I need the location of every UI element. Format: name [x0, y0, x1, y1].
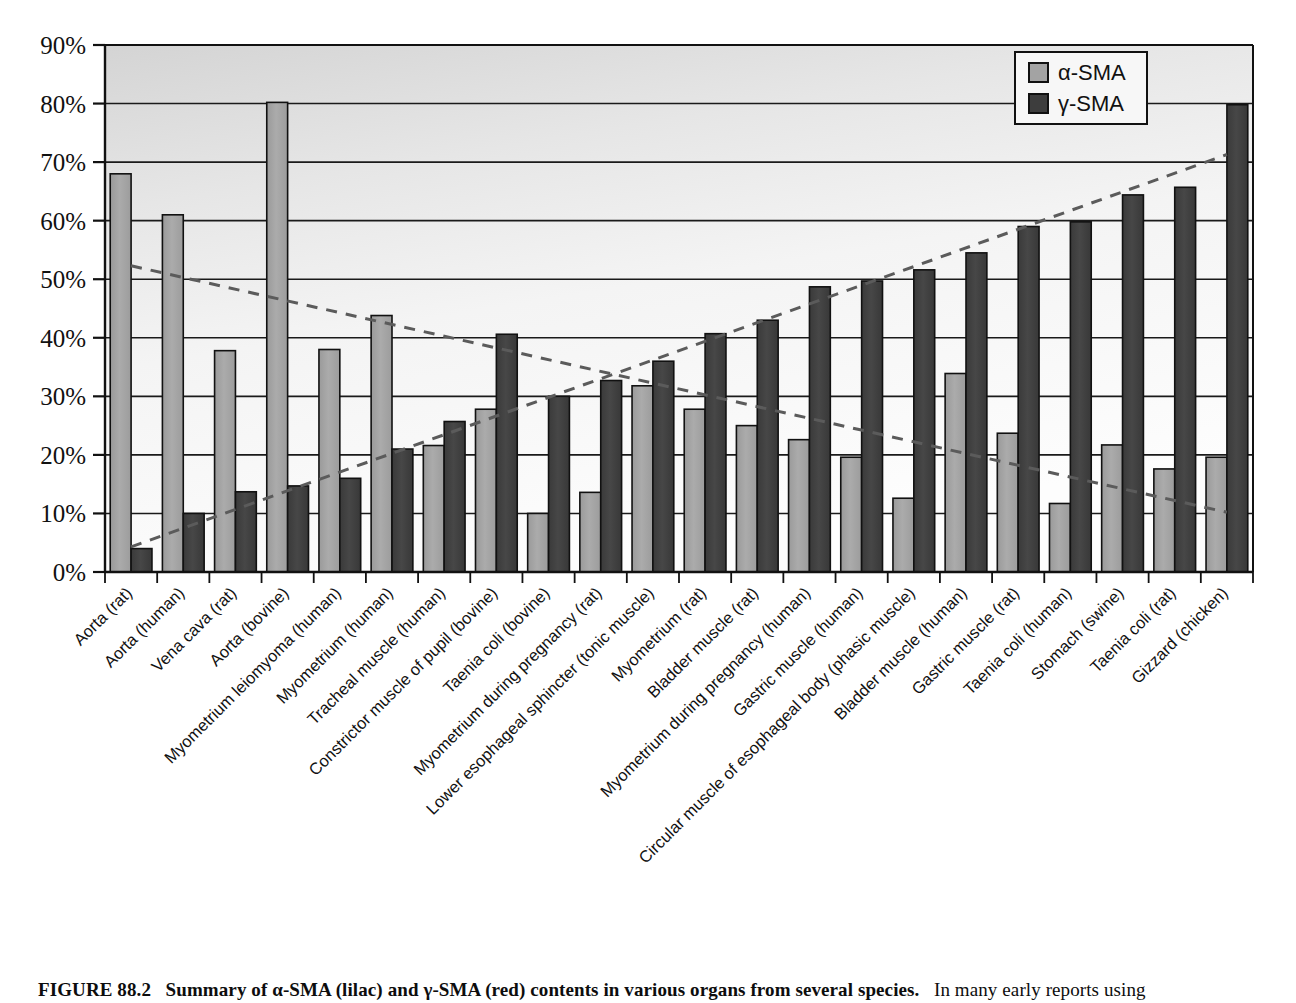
bar-gamma-sma-11 [705, 334, 726, 572]
bar-alpha-sma-2 [215, 351, 236, 572]
gamma-sma-swatch [1029, 94, 1048, 113]
bar-alpha-sma-1 [162, 215, 183, 572]
category-label-7: Constrictor muscle of pupil (bovine) [305, 583, 501, 779]
chart-legend: α-SMA γ-SMA [1015, 52, 1147, 124]
bar-alpha-sma-19 [1102, 445, 1123, 572]
y-tick-label-20%: 20% [40, 442, 86, 469]
bar-chart-svg: 0%10%20%30%40%50%60%70%80%90% Aorta (rat… [0, 0, 1296, 960]
bar-gamma-sma-20 [1175, 187, 1196, 572]
figure-caption-bold: Summary of α-SMA (lilac) and γ-SMA (red)… [166, 979, 920, 1000]
y-tick-label-70%: 70% [40, 149, 86, 176]
bar-alpha-sma-0 [110, 174, 131, 572]
category-label-21: Gizzard (chicken) [1128, 583, 1232, 687]
bar-alpha-sma-7 [475, 409, 496, 572]
bar-gamma-sma-17 [1018, 227, 1039, 572]
y-tick-label-80%: 80% [40, 91, 86, 118]
bar-alpha-sma-16 [945, 374, 966, 573]
x-axis-ticks [105, 572, 1253, 583]
bar-gamma-sma-19 [1123, 195, 1144, 572]
y-tick-label-0%: 0% [53, 559, 86, 586]
bar-gamma-sma-5 [392, 449, 413, 572]
legend-label-alpha-sma: α-SMA [1058, 60, 1126, 85]
bar-alpha-sma-15 [893, 498, 914, 572]
y-tick-label-60%: 60% [40, 208, 86, 235]
bar-gamma-sma-12 [757, 320, 778, 572]
bar-alpha-sma-8 [528, 513, 549, 572]
bar-gamma-sma-8 [549, 396, 570, 572]
bar-gamma-sma-6 [444, 422, 465, 572]
category-label-19: Stomach (swine) [1027, 583, 1127, 683]
y-tick-label-50%: 50% [40, 266, 86, 293]
bar-alpha-sma-11 [684, 409, 705, 572]
y-axis-ticks: 0%10%20%30%40%50%60%70%80%90% [40, 32, 105, 586]
bar-gamma-sma-0 [131, 549, 152, 572]
bar-gamma-sma-14 [862, 281, 883, 572]
bar-alpha-sma-14 [841, 457, 862, 572]
bar-alpha-sma-18 [1049, 503, 1070, 572]
chart-plot-area: 0%10%20%30%40%50%60%70%80%90% Aorta (rat… [0, 0, 1296, 960]
category-label-11: Myometrium (rat) [608, 583, 710, 685]
bar-gamma-sma-3 [288, 486, 309, 572]
bar-alpha-sma-12 [736, 426, 757, 572]
bar-gamma-sma-10 [653, 361, 674, 572]
bar-alpha-sma-20 [1154, 469, 1175, 572]
bar-gamma-sma-4 [340, 478, 361, 572]
bar-alpha-sma-17 [997, 433, 1018, 572]
bar-gamma-sma-15 [914, 270, 935, 572]
bar-alpha-sma-3 [267, 102, 288, 572]
bar-gamma-sma-18 [1070, 222, 1091, 572]
bar-alpha-sma-6 [423, 446, 444, 572]
figure-number: FIGURE 88.2 [38, 979, 151, 1000]
bar-gamma-sma-21 [1227, 105, 1248, 572]
y-tick-label-30%: 30% [40, 383, 86, 410]
bar-alpha-sma-4 [319, 349, 340, 572]
bar-alpha-sma-13 [789, 440, 810, 572]
bar-alpha-sma-5 [371, 316, 392, 572]
bar-gamma-sma-16 [966, 253, 987, 572]
bar-gamma-sma-7 [496, 334, 517, 572]
legend-label-gamma-sma: γ-SMA [1058, 91, 1124, 116]
figure-caption-text: FIGURE 88.2 Summary of α-SMA (lilac) and… [38, 978, 1278, 1002]
bar-gamma-sma-1 [183, 513, 204, 572]
bar-gamma-sma-9 [601, 381, 622, 572]
category-labels: Aorta (rat)Aorta (human)Vena cava (rat)A… [70, 583, 1231, 866]
figure-caption: FIGURE 88.2 Summary of α-SMA (lilac) and… [0, 976, 1296, 1003]
bar-alpha-sma-10 [632, 386, 653, 572]
category-label-9: Myometrium during pregnancy (rat) [410, 583, 605, 778]
alpha-sma-swatch [1029, 63, 1048, 82]
bar-alpha-sma-21 [1206, 457, 1227, 572]
y-tick-label-40%: 40% [40, 325, 86, 352]
y-tick-label-10%: 10% [40, 500, 86, 527]
figure-root: 0%10%20%30%40%50%60%70%80%90% Aorta (rat… [0, 0, 1296, 1003]
bar-alpha-sma-9 [580, 492, 601, 572]
y-tick-label-90%: 90% [40, 32, 86, 59]
bar-gamma-sma-13 [809, 287, 830, 572]
figure-caption-rest: In many early reports using [934, 979, 1146, 1000]
